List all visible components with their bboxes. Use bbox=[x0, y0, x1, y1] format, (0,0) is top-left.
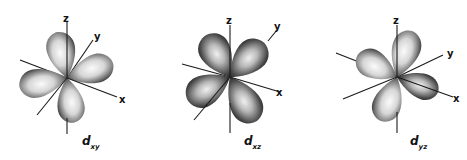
axis-label-z: z bbox=[393, 15, 399, 26]
orbital-label-dyz: dyz bbox=[410, 134, 428, 151]
axis-label-y: y bbox=[447, 48, 454, 59]
orbital-label-dxy: dxy bbox=[82, 134, 100, 151]
axis-label-y: y bbox=[94, 31, 101, 42]
axis-label-y: y bbox=[274, 21, 281, 32]
axis-label-x: x bbox=[276, 87, 283, 98]
panel-dyz: z y x dyz bbox=[336, 15, 460, 151]
panel-dxz: z y x dxz bbox=[180, 15, 283, 151]
axis-label-x: x bbox=[119, 94, 126, 105]
axis-label-z: z bbox=[63, 13, 69, 24]
axis-label-z: z bbox=[226, 15, 232, 26]
orbital-label-dxz: dxz bbox=[244, 134, 262, 151]
d-orbitals-figure: z y x dxy z y x dxz bbox=[0, 0, 467, 160]
orbital-lobes-dxz bbox=[180, 27, 275, 129]
axis-label-x: x bbox=[453, 93, 460, 104]
panel-dxy: z y x dxy bbox=[17, 13, 126, 151]
